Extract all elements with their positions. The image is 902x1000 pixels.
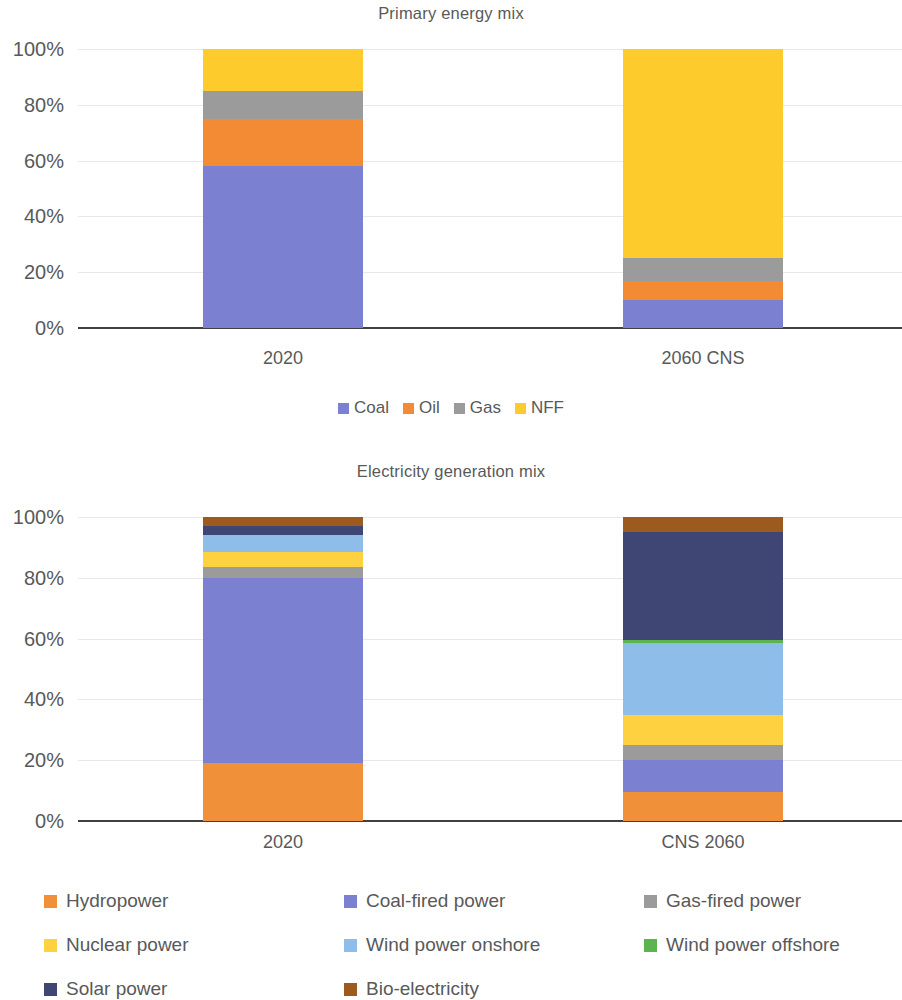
legend-label: Wind power offshore [666,934,840,956]
legend-swatch-icon [644,939,657,952]
legend-swatch-icon [44,983,57,996]
legend-swatch-icon [644,895,657,908]
x-axis-tick-label: 2020 [173,348,393,369]
bar-segment[interactable] [623,517,783,532]
bar-segment[interactable] [203,166,363,328]
legend-label: Nuclear power [66,934,189,956]
x-axis-tick-label: CNS 2060 [593,832,813,853]
y-axis-tick-label: 80% [24,95,64,115]
primary-energy-mix-chart: Primary energy mix 0%20%40%60%80%100% 20… [0,0,902,440]
bar-segment[interactable] [203,763,363,821]
bar-segment[interactable] [623,532,783,640]
legend-swatch-icon [44,939,57,952]
legend-label: Wind power onshore [366,934,540,956]
legend-electricity-item[interactable]: Coal-fired power [344,890,644,912]
y-axis-tick-label: 100% [13,39,64,59]
legend-swatch-icon [344,983,357,996]
bar-segment[interactable] [623,300,783,328]
bar-segment[interactable] [623,258,783,280]
legend-label: Coal [354,398,389,418]
legend-electricity-item[interactable]: Wind power offshore [644,934,902,956]
bar-segment[interactable] [623,745,783,760]
electricity-generation-mix-chart: Electricity generation mix 0%20%40%60%80… [0,455,902,885]
bar-segment[interactable] [623,760,783,792]
legend-swatch-icon [338,403,349,414]
bar-segment[interactable] [623,281,783,301]
legend-electricity-item[interactable]: Bio-electricity [344,978,644,1000]
legend-label: Gas [470,398,501,418]
y-axis-labels-electricity: 0%20%40%60%80%100% [0,517,72,821]
legend-swatch-icon [344,895,357,908]
legend-swatch-icon [344,939,357,952]
x-axis-tick-label: 2060 CNS [593,348,813,369]
bar-segment[interactable] [203,578,363,763]
bar-segment[interactable] [203,49,363,91]
legend-label: Solar power [66,978,167,1000]
y-axis-tick-label: 20% [24,262,64,282]
bar-segment[interactable] [203,119,363,166]
bar-segment[interactable] [203,517,363,526]
legend-primary-item[interactable]: Gas [454,398,501,418]
bar-segment[interactable] [203,552,363,567]
y-axis-tick-label: 0% [35,811,64,831]
y-axis-tick-label: 100% [13,507,64,527]
bar-segment[interactable] [623,715,783,745]
legend-swatch-icon [454,403,465,414]
plot-canvas-primary [78,49,902,328]
stacked-bar[interactable] [203,49,363,328]
chart-title-electricity-generation: Electricity generation mix [0,455,902,481]
legend-electricity-item[interactable]: Solar power [44,978,344,1000]
legend-electricity-item[interactable]: Hydropower [44,890,344,912]
stacked-bar[interactable] [623,517,783,821]
legend-electricity-item[interactable]: Gas-fired power [644,890,902,912]
bar-segment[interactable] [203,535,363,552]
legend-label: Oil [419,398,440,418]
legend-electricity-generation: HydropowerCoal-fired powerGas-fired powe… [44,890,902,1000]
y-axis-tick-label: 40% [24,689,64,709]
plot-canvas-electricity [78,517,902,821]
legend-electricity-item[interactable]: Wind power onshore [344,934,644,956]
y-axis-tick-label: 40% [24,206,64,226]
plot-area-primary-energy: 0%20%40%60%80%100% [0,49,902,328]
y-axis-tick-label: 60% [24,151,64,171]
legend-primary-item[interactable]: Coal [338,398,389,418]
bar-segment[interactable] [203,567,363,578]
legend-label: Coal-fired power [366,890,505,912]
legend-label: Gas-fired power [666,890,801,912]
bar-segment[interactable] [623,792,783,821]
legend-primary-item[interactable]: NFF [515,398,564,418]
y-axis-tick-label: 20% [24,750,64,770]
y-axis-tick-label: 60% [24,629,64,649]
legend-primary-energy: CoalOilGasNFF [0,398,902,418]
plot-area-electricity: 0%20%40%60%80%100% [0,517,902,821]
bar-segment[interactable] [623,640,783,643]
legend-swatch-icon [515,403,526,414]
legend-electricity-item[interactable]: Nuclear power [44,934,344,956]
stacked-bar[interactable] [203,517,363,821]
y-axis-tick-label: 0% [35,318,64,338]
y-axis-labels-primary: 0%20%40%60%80%100% [0,49,72,328]
legend-swatch-icon [403,403,414,414]
chart-title-primary-energy: Primary energy mix [0,0,902,23]
y-axis-tick-label: 80% [24,568,64,588]
legend-label: Bio-electricity [366,978,479,1000]
legend-label: Hydropower [66,890,168,912]
bar-segment[interactable] [203,91,363,119]
bar-segment[interactable] [623,643,783,714]
bar-segment[interactable] [203,526,363,535]
legend-label: NFF [531,398,564,418]
legend-swatch-icon [44,895,57,908]
stacked-bar[interactable] [623,49,783,328]
x-axis-tick-label: 2020 [173,832,393,853]
bar-segment[interactable] [623,49,783,258]
legend-primary-item[interactable]: Oil [403,398,440,418]
